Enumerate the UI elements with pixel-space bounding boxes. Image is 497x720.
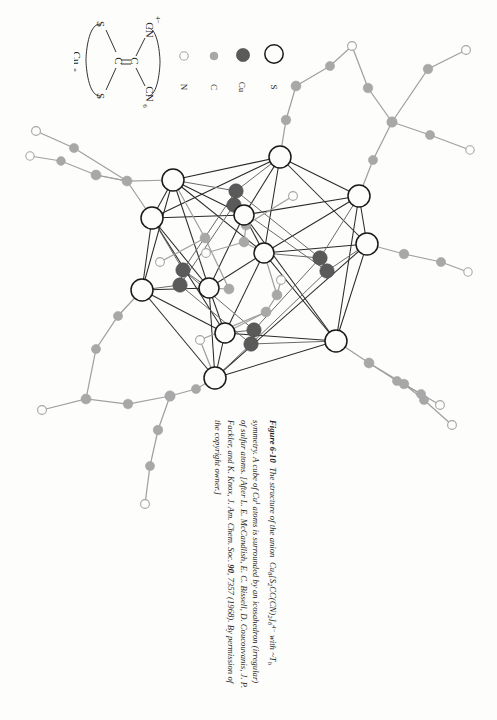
copper-atoms xyxy=(173,184,334,351)
svg-text:C: C xyxy=(129,57,141,64)
legend: N C Cu S xyxy=(172,36,290,116)
sulfur-atoms xyxy=(131,146,378,389)
svg-text:S: S xyxy=(95,93,107,99)
cluster-bonds xyxy=(142,157,367,378)
legend-label-cu: Cu xyxy=(237,80,247,94)
inner-ligand-bonds xyxy=(160,180,293,340)
figure-caption: Figure 6-10 The structure of the anion C… xyxy=(211,420,280,692)
svg-text:4−: 4− xyxy=(154,16,162,24)
svg-text:S: S xyxy=(95,21,107,27)
sulfur-legend-icon xyxy=(265,45,283,63)
legend-label-n: N xyxy=(179,80,189,94)
legend-label-c: C xyxy=(209,80,219,94)
svg-text:Cu: Cu xyxy=(74,52,83,65)
svg-text:CN: CN xyxy=(144,22,156,37)
carbon-legend-icon xyxy=(210,52,218,60)
caption-reference: After L. E. McCandlish, E. C. Bissell, D… xyxy=(213,420,248,688)
figure-caption-container: Figure 6-10 The structure of the anion C… xyxy=(200,418,292,694)
structural-formula: S S C C CN CN Cu 8 6 4− xyxy=(72,6,164,138)
svg-text:6: 6 xyxy=(141,104,149,108)
svg-text:8: 8 xyxy=(74,68,78,72)
copper-legend-icon xyxy=(236,48,249,61)
svg-text:CN: CN xyxy=(144,86,156,101)
legend-label-s: S xyxy=(269,80,279,94)
nitrogen-legend-icon xyxy=(180,52,188,60)
svg-text:C: C xyxy=(113,57,125,64)
figure-page: .lb{stroke:#a0a0a0;stroke-width:1.25;fil… xyxy=(0,0,497,720)
figure-number: Figure 6-10 xyxy=(268,420,278,463)
